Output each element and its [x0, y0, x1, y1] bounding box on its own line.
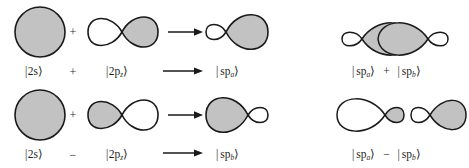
- shape-operator-row-a: +: [66, 26, 80, 38]
- antibonding-right-small-lobe: [411, 108, 430, 123]
- bonding-right-small-lobe: [428, 32, 448, 46]
- orbital-2s-sphere-row-b: [15, 90, 65, 140]
- orbital-hybridization-figure: + + |2s⟩ + |2pz⟩ |spa⟩ |spa⟩ + |spb⟩ |2s…: [0, 0, 469, 168]
- orbital-2pz-lobe-negative-row-a: [88, 19, 122, 46]
- shape-operator-row-b: +: [66, 109, 80, 121]
- reaction-arrow-row-b: [168, 111, 203, 119]
- hybrid-sp-b-lobe-negative-row-b: [248, 108, 268, 123]
- label-2pz-row-a: |2pz⟩: [106, 66, 128, 78]
- combination-operator-row-b: −: [378, 148, 395, 160]
- bonding-left-small-lobe: [342, 32, 362, 46]
- orbital-2pz-lobe-positive-row-a: [122, 17, 158, 47]
- hybrid-sp-a-lobe-negative-row-a: [206, 25, 226, 40]
- orbital-2s-sphere-row-a: [15, 7, 65, 57]
- combination-bonding-row-a: [342, 23, 448, 55]
- reaction-arrow-row-a: [168, 28, 203, 36]
- label-2pz-row-b: |2pz⟩: [106, 149, 128, 161]
- label-2s-row-b: |2s⟩: [25, 149, 43, 161]
- label-operator-row-b: −: [66, 149, 80, 161]
- label-hybrid-sp-a-row-a: |spa⟩: [216, 66, 239, 78]
- antibonding-left-small-lobe: [385, 108, 404, 123]
- bonding-right-large-lobe: [378, 23, 428, 55]
- antibonding-right-large-lobe: [430, 100, 466, 129]
- combination-operator-row-a: +: [378, 65, 395, 77]
- hybrid-sp-a-lobe-positive-row-a: [226, 15, 268, 50]
- label-2s-row-a: |2s⟩: [25, 66, 43, 78]
- antibonding-left-large-lobe: [337, 99, 385, 131]
- label-hybrid-sp-b-row-b: |spb⟩: [216, 149, 239, 161]
- orbital-2pz-lobe-negative-row-b: [122, 100, 158, 130]
- label-combination-row-a: |spa⟩ + |spb⟩: [352, 66, 421, 78]
- label-operator-row-a: +: [66, 66, 80, 78]
- label-combination-row-b: |spa⟩ − |spb⟩: [352, 149, 421, 161]
- hybrid-sp-b-lobe-positive-row-b: [206, 98, 248, 133]
- orbital-2pz-lobe-positive-row-b: [88, 102, 122, 129]
- combination-antibonding-row-b: [337, 99, 466, 131]
